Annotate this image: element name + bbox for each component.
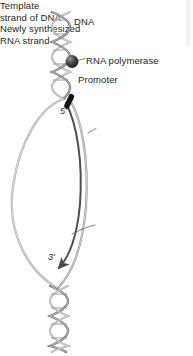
template-strand-of-dna: [58, 100, 87, 288]
label-promoter: Promoter: [78, 74, 118, 86]
dna-double-helix-top: [52, 12, 70, 99]
label-rna-polymerase: RNA polymerase: [86, 55, 159, 67]
page-edge: [187, 0, 191, 46]
label-three-prime: 3': [48, 252, 55, 262]
rna-polymerase-marker: [66, 55, 79, 68]
label-dna: DNA: [74, 16, 94, 28]
coding-strand: [12, 99, 63, 288]
label-five-prime: 5': [60, 106, 67, 116]
newly-synthesized-rna-strand: [59, 103, 81, 268]
transcription-diagram: DNA RNA polymerase Promoter Template str…: [0, 0, 193, 356]
leader-line-polymerase: [78, 59, 85, 61]
dna-double-helix-bottom: [50, 286, 68, 352]
diagram-artwork: [0, 0, 193, 356]
leader-line-template: [88, 129, 96, 134]
